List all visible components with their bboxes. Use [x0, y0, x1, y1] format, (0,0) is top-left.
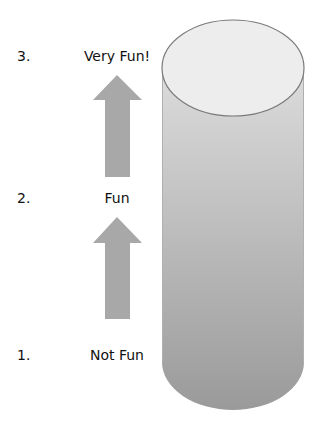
arrow-up-icon [93, 217, 142, 319]
level-label-fun: Fun [62, 189, 172, 207]
level-label-very-fun: Very Fun! [62, 47, 172, 65]
cylinder-body [162, 68, 304, 410]
level-number-3: 3. [17, 47, 30, 65]
cylinder-meter [162, 20, 304, 410]
level-number-1: 1. [17, 346, 30, 364]
arrow-up-icon [93, 75, 142, 177]
cylinder-top [162, 20, 304, 116]
level-number-2: 2. [17, 189, 30, 207]
level-label-not-fun: Not Fun [62, 346, 172, 364]
